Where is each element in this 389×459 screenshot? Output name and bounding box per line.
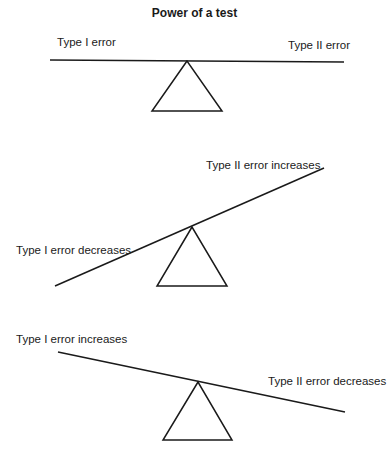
seesaw-balanced: [50, 60, 344, 111]
beam-balanced: [50, 60, 344, 62]
label-type2-decreases: Type II error decreases: [268, 375, 386, 387]
seesaw-tilt-2: [58, 352, 345, 440]
seesaw-tilt-1: [55, 168, 324, 286]
label-type2-increases: Type II error increases: [206, 159, 320, 171]
fulcrum-tilt-2: [163, 382, 232, 440]
label-type1: Type I error: [57, 36, 116, 48]
label-type1-decreases: Type I error decreases: [16, 244, 131, 256]
beam-tilt-1: [55, 168, 324, 286]
fulcrum-balanced: [152, 61, 222, 111]
label-type2: Type II error: [288, 39, 350, 51]
label-type1-increases: Type I error increases: [16, 333, 127, 345]
seesaw-diagrams: [0, 0, 389, 459]
